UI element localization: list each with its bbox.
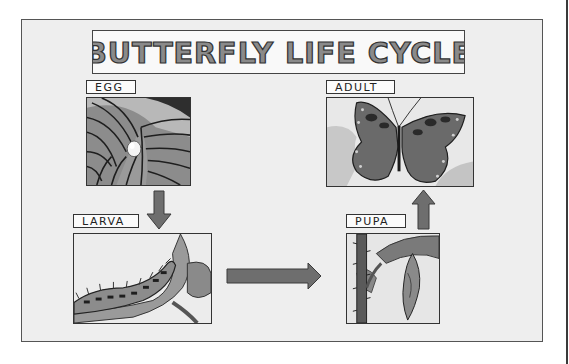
page-edge-line	[566, 0, 568, 364]
arrow-right-icon	[226, 262, 322, 290]
arrow-down-icon	[146, 190, 172, 230]
title-box: BUTTERFLY LIFE CYCLE	[92, 30, 465, 74]
egg-image	[86, 97, 191, 186]
chrysalis-illustration	[347, 234, 439, 323]
adult-label: ADULT	[326, 80, 395, 94]
butterfly-illustration	[327, 98, 473, 186]
title-graphic: BUTTERFLY LIFE CYCLE	[93, 31, 464, 73]
arrow-up-icon	[411, 189, 436, 230]
adult-image	[326, 97, 474, 187]
caterpillar-illustration	[74, 234, 211, 323]
page-title: BUTTERFLY LIFE CYCLE	[93, 36, 464, 70]
larva-image	[73, 233, 212, 324]
pupa-image	[346, 233, 440, 324]
egg-label: EGG	[86, 80, 136, 94]
pupa-label: PUPA	[346, 214, 406, 228]
larva-label: LARVA	[73, 214, 139, 228]
leaf-egg-illustration	[87, 98, 190, 185]
